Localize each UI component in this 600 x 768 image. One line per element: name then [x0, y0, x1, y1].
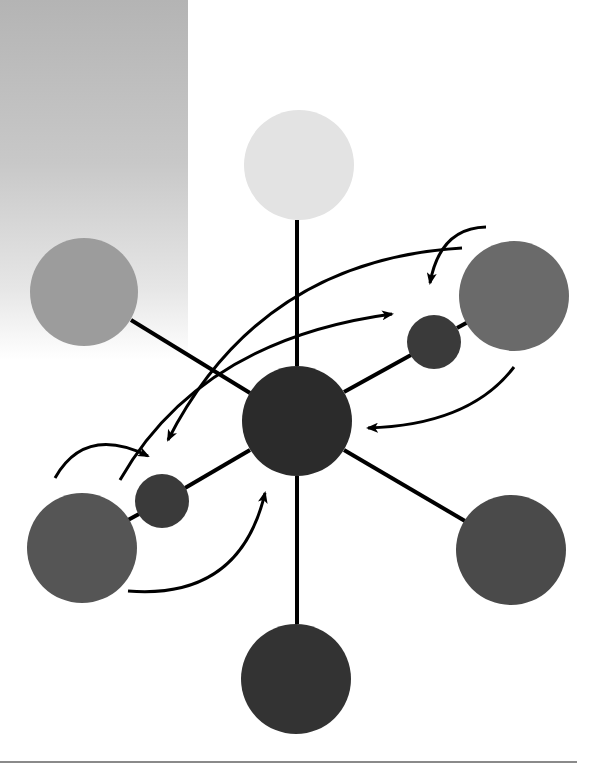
- node-center: [242, 366, 352, 476]
- node-top: [244, 110, 354, 220]
- bottom-divider-line: [0, 761, 577, 763]
- edge-center-small-right: [344, 355, 411, 392]
- edge-center-upper-left: [131, 320, 250, 393]
- network-diagram: [0, 0, 600, 768]
- arrow-right-to-center: [368, 367, 514, 428]
- node-small-left: [135, 474, 189, 528]
- node-upper-right: [459, 241, 569, 351]
- edge-center-lower-right: [344, 450, 465, 521]
- nodes: [27, 110, 569, 734]
- node-lower-right: [456, 495, 566, 605]
- node-lower-left: [27, 493, 137, 603]
- node-small-right: [407, 315, 461, 369]
- edge-center-small-left: [185, 450, 250, 488]
- arrow-left-hook: [55, 445, 148, 478]
- node-bottom: [241, 624, 351, 734]
- node-upper-left: [30, 238, 138, 346]
- edge-small-left-lower-left: [128, 514, 139, 520]
